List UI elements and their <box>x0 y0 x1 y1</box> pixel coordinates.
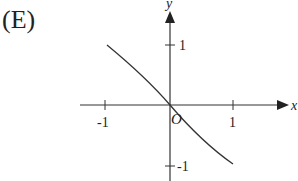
y-axis-label: y <box>164 0 173 11</box>
origin-label: O <box>171 111 182 127</box>
y-tick-label-neg1: -1 <box>177 159 189 174</box>
x-axis-arrow-icon <box>277 100 289 110</box>
x-tick-label-neg1: -1 <box>97 115 109 130</box>
x-axis-label: x <box>290 98 298 113</box>
x-tick-label-1: 1 <box>229 115 236 130</box>
option-label: (E) <box>2 5 35 34</box>
graph-figure: (E) y x O -1 1 1 -1 <box>0 0 298 181</box>
y-axis-arrow-icon <box>165 11 175 23</box>
y-tick-label-1: 1 <box>179 38 186 53</box>
